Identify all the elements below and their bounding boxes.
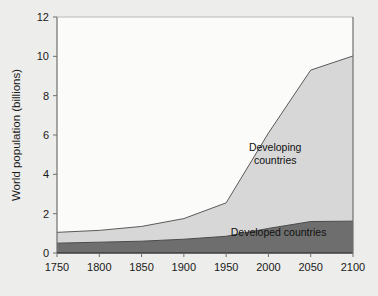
- y-axis-tick-label: 0: [43, 247, 49, 259]
- x-axis-tick-label: 1950: [214, 261, 238, 273]
- y-axis-tick-label: 2: [43, 208, 49, 220]
- y-axis-tick-label: 10: [37, 50, 49, 62]
- y-axis-tick-label: 8: [43, 90, 49, 102]
- x-axis-tick-label: 1750: [45, 261, 69, 273]
- x-axis-tick-label: 1850: [129, 261, 153, 273]
- y-axis-tick-label: 6: [43, 129, 49, 141]
- x-axis-tick-label: 2000: [256, 261, 280, 273]
- x-axis-tick-label: 2050: [298, 261, 322, 273]
- developing-label-line: countries: [254, 154, 297, 166]
- developing-label-line: Developing: [249, 141, 302, 153]
- y-axis-tick-label: 12: [37, 11, 49, 23]
- chart-svg: 024681012 175018001850190019502000205021…: [0, 0, 378, 296]
- developed-label-line: Developed countries: [231, 226, 327, 238]
- developed-label: Developed countries: [231, 226, 327, 238]
- y-axis-title: World population (billions): [10, 69, 22, 201]
- x-axis-tick-label: 1900: [172, 261, 196, 273]
- x-axis-tick-label: 1800: [87, 261, 111, 273]
- developing-label: Developingcountries: [249, 141, 302, 166]
- y-axis-tick-label: 4: [43, 168, 49, 180]
- x-axis-tick-label: 2100: [341, 261, 365, 273]
- world-population-chart: 024681012 175018001850190019502000205021…: [0, 0, 378, 296]
